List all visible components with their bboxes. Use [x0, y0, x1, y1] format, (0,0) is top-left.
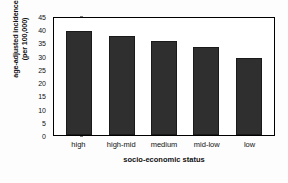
bar-series	[54, 18, 274, 135]
y-tick-label: 15	[38, 93, 46, 100]
x-tick-label: medium	[143, 140, 186, 152]
x-axis-title: socio-economic status	[53, 155, 275, 164]
y-tick-label: 35	[38, 40, 46, 47]
y-tick-label: 5	[42, 119, 46, 126]
bar-mid-low[interactable]	[193, 47, 219, 135]
y-tick-label: 25	[38, 66, 46, 73]
bar-medium[interactable]	[151, 41, 177, 135]
x-tick-label: low	[228, 140, 271, 152]
bar-slot	[58, 18, 100, 135]
x-axis-tick-labels: highhigh-midmediummid-lowlow	[53, 140, 275, 152]
x-tick-label: mid-low	[185, 140, 228, 152]
bar-low[interactable]	[236, 58, 262, 135]
y-tick-label: 45	[38, 14, 46, 21]
y-axis-title: age-adjusted incidence (per 100,000)	[9, 0, 31, 99]
bar-high-mid[interactable]	[109, 36, 135, 135]
y-tick-label: 20	[38, 80, 46, 87]
y-axis-title-line2: (per 100,000)	[20, 18, 29, 61]
bar-high[interactable]	[66, 31, 92, 135]
bar-slot	[100, 18, 142, 135]
bar-slot	[185, 18, 227, 135]
x-tick-label: high	[57, 140, 100, 152]
y-tick-label: 0	[42, 133, 46, 140]
bar-slot	[143, 18, 185, 135]
plot-area	[53, 17, 275, 136]
y-axis-tick-labels: 051015202530354045	[30, 17, 46, 136]
y-tick-label: 30	[38, 53, 46, 60]
y-axis-title-line1: age-adjusted incidence	[11, 0, 20, 77]
y-tick-label: 40	[38, 27, 46, 34]
bar-slot	[228, 18, 270, 135]
bar-chart-figure: age-adjusted incidence (per 100,000) 051…	[0, 0, 288, 183]
x-tick-label: high-mid	[100, 140, 143, 152]
y-tick-label: 10	[38, 106, 46, 113]
